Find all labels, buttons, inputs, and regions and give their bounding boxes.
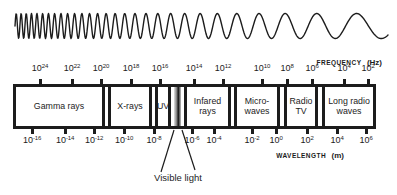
visible-light-pointer-left xyxy=(161,130,174,172)
chirp-wave xyxy=(15,14,388,39)
wavelength-tick-label: 10-14 xyxy=(56,135,74,145)
wavelength-tick xyxy=(336,129,339,134)
wavelength-tick xyxy=(213,129,216,134)
wavelength-tick xyxy=(153,129,156,134)
wavelength-tick xyxy=(306,129,309,134)
wavelength-tick-label: 106 xyxy=(359,135,372,145)
em-spectrum-diagram: FREQUENCY (Hz) 1024102210201018101610141… xyxy=(0,0,397,195)
band-box-radio-tv: RadioTV xyxy=(284,87,318,126)
band-box-label: X-rays xyxy=(117,102,142,112)
wavelength-tick xyxy=(275,129,278,134)
visible-light-label: Visible light xyxy=(154,172,202,183)
band-box-label: TV xyxy=(295,107,306,117)
band-box-label: waves xyxy=(337,107,362,117)
wavelength-axis-title: WAVELENGTH (m) xyxy=(276,144,344,162)
frequency-tick-label: 1024 xyxy=(32,63,48,73)
wavelength-tick xyxy=(191,129,194,134)
band-box-infared-rays: Infaredrays xyxy=(184,87,231,126)
wavelength-tick xyxy=(365,129,368,134)
wavelength-tick xyxy=(31,129,34,134)
band-box-label: rays xyxy=(199,107,216,117)
frequency-tick-label: 1022 xyxy=(64,63,80,73)
frequency-tick-label: 108 xyxy=(280,63,293,73)
band-box-long-radio-waves: Long radiowaves xyxy=(322,87,373,126)
wavelength-tick-label: 10-16 xyxy=(23,135,41,145)
spectrum-band: Gamma raysX-raysUVInfaredraysMicro-waves… xyxy=(13,84,376,129)
frequency-tick-label: 106 xyxy=(305,63,318,73)
wavelength-tick-label: 10-12 xyxy=(85,135,103,145)
band-box-label: UV xyxy=(157,102,169,112)
wavelength-tick xyxy=(123,129,126,134)
frequency-tick-label: 1012 xyxy=(215,63,231,73)
wavelength-tick xyxy=(93,129,96,134)
band-box-label: waves xyxy=(245,107,270,117)
band-box-uv: UV xyxy=(155,87,171,126)
band-box-x-rays: X-rays xyxy=(108,87,152,126)
wavelength-tick-label: 10-8 xyxy=(147,135,162,145)
frequency-tick-label: 1016 xyxy=(152,63,168,73)
wavelength-tick xyxy=(251,129,254,134)
frequency-tick-label: 1014 xyxy=(186,63,202,73)
wavelength-tick-label: 10-6 xyxy=(185,135,200,145)
wavelength-axis-name: WAVELENGTH xyxy=(276,152,326,159)
wavelength-tick-label: 10-2 xyxy=(245,135,260,145)
frequency-tick-label: 102 xyxy=(361,63,374,73)
band-box-label: Gamma rays xyxy=(34,102,84,112)
wavelength-tick-label: 10-4 xyxy=(207,135,222,145)
band-box-gamma-rays: Gamma rays xyxy=(16,87,105,126)
frequency-tick-label: 1020 xyxy=(93,63,109,73)
wavelength-tick xyxy=(64,129,67,134)
visible-light-band xyxy=(174,87,181,126)
wavelength-axis-unit: (m) xyxy=(332,151,344,160)
wavelength-tick-label: 10-10 xyxy=(115,135,133,145)
band-box-micro-waves: Micro-waves xyxy=(234,87,280,126)
frequency-tick-label: 1010 xyxy=(254,63,270,73)
frequency-tick-label: 1018 xyxy=(123,63,139,73)
frequency-tick-label: 104 xyxy=(337,63,350,73)
